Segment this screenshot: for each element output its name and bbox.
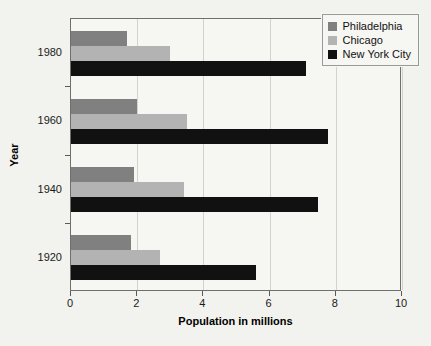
legend-item-nyc[interactable]: New York City: [328, 47, 411, 61]
x-tick-label: 8: [332, 297, 338, 309]
x-tick: [335, 291, 336, 296]
legend-swatch-icon: [328, 50, 337, 59]
bar-nyc-1940: [71, 197, 318, 212]
x-axis-title: Population in millions: [70, 315, 401, 327]
bar-philadelphia-1920: [71, 235, 131, 250]
legend-label: New York City: [343, 48, 411, 60]
legend: PhiladelphiaChicagoNew York City: [322, 14, 419, 66]
legend-item-philadelphia[interactable]: Philadelphia: [328, 19, 411, 33]
legend-swatch-icon: [328, 36, 337, 45]
legend-swatch-icon: [328, 22, 337, 31]
y-tick-label-1940: 1940: [38, 183, 62, 195]
bar-group-1960: [71, 99, 400, 144]
y-tick: [65, 223, 70, 224]
bar-chicago-1960: [71, 114, 187, 129]
bar-nyc-1980: [71, 61, 306, 76]
bar-chicago-1940: [71, 182, 184, 197]
legend-item-chicago[interactable]: Chicago: [328, 33, 411, 47]
x-tick-label: 4: [199, 297, 205, 309]
bar-philadelphia-1980: [71, 31, 127, 46]
y-tick-label-1980: 1980: [38, 46, 62, 58]
bar-chart: 0246810 1980196019401920 Population in m…: [0, 0, 431, 346]
x-tick-label: 0: [67, 297, 73, 309]
y-tick-label-1920: 1920: [38, 251, 62, 263]
legend-label: Chicago: [343, 34, 383, 46]
legend-label: Philadelphia: [343, 20, 403, 32]
bar-philadelphia-1960: [71, 99, 137, 114]
x-tick-label: 10: [395, 297, 407, 309]
bar-chicago-1920: [71, 250, 160, 265]
x-tick-label: 2: [133, 297, 139, 309]
bar-chicago-1980: [71, 46, 170, 61]
x-tick: [136, 291, 137, 296]
bar-nyc-1920: [71, 265, 256, 280]
y-tick: [65, 155, 70, 156]
bar-philadelphia-1940: [71, 167, 134, 182]
bar-group-1920: [71, 235, 400, 280]
x-tick-label: 6: [266, 297, 272, 309]
bar-group-1940: [71, 167, 400, 212]
x-tick: [269, 291, 270, 296]
bar-nyc-1960: [71, 129, 328, 144]
x-tick: [401, 291, 402, 296]
y-axis-title: Year: [8, 143, 20, 166]
x-tick: [70, 291, 71, 296]
x-tick: [202, 291, 203, 296]
y-tick: [65, 86, 70, 87]
y-tick-label-1960: 1960: [38, 114, 62, 126]
